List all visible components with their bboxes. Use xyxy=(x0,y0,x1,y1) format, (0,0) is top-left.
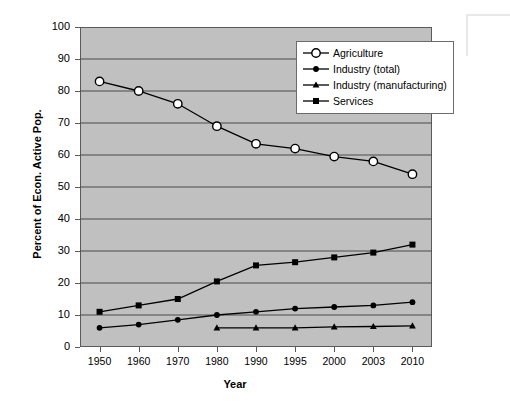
legend-item-2: Industry (manufacturing) xyxy=(301,77,447,93)
y-tick-label: 40 xyxy=(0,212,70,224)
data-point xyxy=(136,302,142,308)
data-point xyxy=(313,66,319,72)
y-tick-label: 10 xyxy=(0,308,70,320)
y-tick-mark xyxy=(75,315,80,316)
data-point xyxy=(174,100,182,108)
x-tick-mark xyxy=(217,347,218,352)
chart-legend: AgricultureIndustry (total)Industry (man… xyxy=(296,41,454,114)
data-point xyxy=(292,259,298,265)
data-point xyxy=(292,306,298,312)
data-point xyxy=(408,170,416,178)
x-axis-title: Year xyxy=(0,378,470,390)
y-tick-label: 0 xyxy=(0,340,70,352)
data-point xyxy=(252,140,260,148)
data-point xyxy=(370,303,376,309)
data-point xyxy=(253,309,259,315)
data-point xyxy=(291,144,299,152)
page-corner-artifact xyxy=(466,14,510,56)
legend-label: Agriculture xyxy=(331,47,383,59)
x-tick-mark xyxy=(100,347,101,352)
data-point xyxy=(175,317,181,323)
y-tick-mark xyxy=(75,59,80,60)
data-point xyxy=(213,122,221,130)
legend-marker-icon xyxy=(301,46,331,60)
legend-marker-icon xyxy=(301,94,331,108)
data-point xyxy=(409,242,415,248)
data-point xyxy=(97,309,103,315)
y-tick-mark xyxy=(75,283,80,284)
data-point xyxy=(175,296,181,302)
data-point xyxy=(410,299,416,305)
data-point xyxy=(331,254,337,260)
x-tick-mark xyxy=(334,347,335,352)
x-tick-mark xyxy=(139,347,140,352)
legend-item-0: Agriculture xyxy=(301,45,447,61)
data-point xyxy=(312,49,320,57)
y-tick-mark xyxy=(75,155,80,156)
chart-container: Percent of Econ. Active Pop. 01020304050… xyxy=(0,0,510,412)
data-point xyxy=(331,304,337,310)
y-tick-label: 30 xyxy=(0,244,70,256)
y-tick-label: 20 xyxy=(0,276,70,288)
data-point xyxy=(95,77,103,85)
y-tick-label: 90 xyxy=(0,52,70,64)
data-point xyxy=(97,325,103,331)
data-point xyxy=(369,157,377,165)
legend-label: Industry (manufacturing) xyxy=(331,79,447,91)
data-point xyxy=(370,250,376,256)
y-tick-mark xyxy=(75,219,80,220)
y-tick-mark xyxy=(75,91,80,92)
x-tick-mark xyxy=(256,347,257,352)
y-tick-mark xyxy=(75,123,80,124)
data-point xyxy=(330,152,338,160)
series-line-3 xyxy=(100,245,413,312)
x-tick-mark xyxy=(412,347,413,352)
data-point xyxy=(214,312,220,318)
y-tick-label: 80 xyxy=(0,84,70,96)
y-tick-label: 70 xyxy=(0,116,70,128)
x-tick-label: 2010 xyxy=(382,355,442,367)
x-tick-mark xyxy=(373,347,374,352)
legend-item-1: Industry (total) xyxy=(301,61,447,77)
legend-label: Industry (total) xyxy=(331,63,400,75)
legend-marker-icon xyxy=(301,62,331,76)
y-tick-mark xyxy=(75,251,80,252)
y-tick-mark xyxy=(75,27,80,28)
y-tick-label: 50 xyxy=(0,180,70,192)
y-tick-label: 60 xyxy=(0,148,70,160)
data-point xyxy=(134,87,142,95)
y-tick-mark xyxy=(75,347,80,348)
data-point xyxy=(253,262,259,268)
y-tick-mark xyxy=(75,187,80,188)
legend-label: Services xyxy=(331,95,373,107)
x-tick-mark xyxy=(295,347,296,352)
y-tick-label: 100 xyxy=(0,20,70,32)
legend-item-3: Services xyxy=(301,93,447,109)
data-point xyxy=(214,278,220,284)
series-line-2 xyxy=(217,326,413,328)
x-tick-mark xyxy=(178,347,179,352)
data-point xyxy=(313,98,319,104)
legend-marker-icon xyxy=(301,78,331,92)
data-point xyxy=(136,322,142,328)
